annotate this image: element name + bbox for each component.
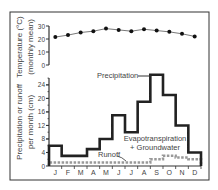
- month-label: F: [66, 169, 70, 176]
- precip-tick-label: 8: [41, 135, 45, 142]
- temp-tick-label: 10: [38, 49, 46, 56]
- temp-point: [155, 29, 159, 33]
- temp-axis-label-2: (monthly mean): [26, 19, 35, 75]
- precip-tick-label: 24: [38, 81, 46, 88]
- precipitation-annotation: Precipitation: [97, 71, 138, 80]
- temp-point: [142, 27, 146, 31]
- temp-point: [66, 33, 70, 37]
- month-label: D: [192, 169, 197, 176]
- precip-axis-label-2: per month (cm): [26, 95, 35, 150]
- month-label: N: [179, 169, 184, 176]
- month-label: J: [130, 169, 134, 176]
- month-label: A: [91, 169, 96, 176]
- temp-point: [91, 29, 95, 33]
- precip-axis-label-1: Precipitation or runoff: [15, 83, 24, 160]
- month-label: A: [142, 169, 147, 176]
- month-label: S: [154, 169, 159, 176]
- month-label: M: [103, 169, 109, 176]
- temp-point: [117, 28, 121, 32]
- temp-point: [53, 35, 57, 39]
- et-annotation-line2: + Groundwater: [130, 143, 180, 152]
- temp-point: [167, 30, 171, 34]
- climate-chart: Temperature (°C) (monthly mean) Precipit…: [0, 0, 218, 190]
- precip-tick-label: 0: [41, 163, 45, 170]
- precip-tick-label: 20: [38, 95, 46, 102]
- runoff-annotation: Runoff: [98, 150, 121, 159]
- month-label: J: [117, 169, 121, 176]
- et-annotation-line1: Evapotranspiration: [124, 134, 187, 143]
- temp-point: [180, 32, 184, 36]
- precip-tick-label: 4: [41, 149, 45, 156]
- precip-tick-label: 12: [38, 122, 46, 129]
- temp-tick-label: 30: [38, 23, 46, 30]
- month-label: O: [167, 169, 173, 176]
- temp-point: [129, 29, 133, 33]
- temp-point: [79, 31, 83, 35]
- temp-axis-label-1: Temperature (°C): [15, 16, 24, 78]
- month-label: M: [78, 169, 84, 176]
- temp-point: [193, 34, 197, 38]
- temp-tick-label: 0: [41, 62, 45, 69]
- temp-point: [104, 27, 108, 31]
- precip-tick-label: 16: [38, 108, 46, 115]
- temp-tick-label: 20: [38, 36, 46, 43]
- month-label: J: [54, 169, 58, 176]
